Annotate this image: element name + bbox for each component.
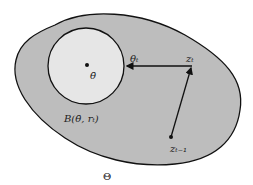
region-theta	[15, 14, 241, 165]
z-t-label: zₜ	[185, 53, 194, 64]
center-label: θ̄	[90, 70, 96, 81]
ball-label: B(θ̄, rₜ)	[63, 113, 99, 124]
z-t-minus-1-point	[169, 135, 173, 139]
diagram-canvas: θ̄ θₜ zₜ B(θ̄, rₜ) zₜ₋₁ Θ	[0, 0, 253, 185]
theta-t-label: θₜ	[130, 53, 139, 64]
center-point	[85, 63, 89, 67]
z-t-minus-1-label: zₜ₋₁	[169, 143, 187, 154]
region-label: Θ	[103, 171, 111, 182]
